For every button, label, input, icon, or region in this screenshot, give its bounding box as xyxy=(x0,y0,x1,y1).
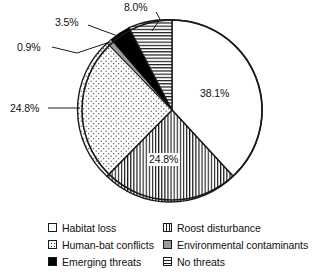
slice-value-emerging-threats: 3.5% xyxy=(55,17,79,28)
legend-swatch-emerging-threats-icon xyxy=(48,257,57,266)
slice-value-habitat-loss: 38.1% xyxy=(200,88,229,99)
slice-value-no-threats: 8.0% xyxy=(124,2,148,13)
legend-swatch-no-threats-icon xyxy=(163,257,172,266)
slice-value-human-bat-conflicts: 24.8% xyxy=(10,103,39,114)
legend-item-habitat-loss[interactable]: Habitat loss xyxy=(48,220,116,235)
legend-label-human-bat-conflicts: Human-bat conflicts xyxy=(62,239,154,251)
legend-label-environmental-contaminants: Environmental contaminants xyxy=(177,239,308,251)
pie-svg xyxy=(0,0,316,215)
pie-plot-area: 38.1% 24.8% 24.8% 0.9% 3.5% 8.0% xyxy=(0,0,316,215)
legend-label-emerging-threats: Emerging threats xyxy=(62,256,141,268)
legend-item-environmental-contaminants[interactable]: Environmental contaminants xyxy=(163,237,308,252)
legend-item-emerging-threats[interactable]: Emerging threats xyxy=(48,254,141,269)
leader-line-emerging-threats xyxy=(88,25,118,36)
legend-item-human-bat-conflicts[interactable]: Human-bat conflicts xyxy=(48,237,154,252)
legend-swatch-roost-disturbance-icon xyxy=(163,223,172,232)
legend-swatch-habitat-loss-icon xyxy=(48,223,57,232)
slice-value-roost-disturbance: 24.8% xyxy=(147,153,180,166)
legend-swatch-environmental-contaminants-icon xyxy=(163,240,172,249)
legend-swatch-human-bat-conflicts-icon xyxy=(48,240,57,249)
legend-label-no-threats: No threats xyxy=(177,256,225,268)
pie-chart-figure: 38.1% 24.8% 24.8% 0.9% 3.5% 8.0% Habitat… xyxy=(0,0,316,278)
slice-value-environmental-contaminants: 0.9% xyxy=(17,42,41,53)
chart-legend: Habitat loss Human-bat conflicts Emergin… xyxy=(0,219,316,278)
legend-item-no-threats[interactable]: No threats xyxy=(163,254,225,269)
legend-item-roost-disturbance[interactable]: Roost disturbance xyxy=(163,220,261,235)
legend-label-habitat-loss: Habitat loss xyxy=(62,222,116,234)
legend-label-roost-disturbance: Roost disturbance xyxy=(177,222,261,234)
